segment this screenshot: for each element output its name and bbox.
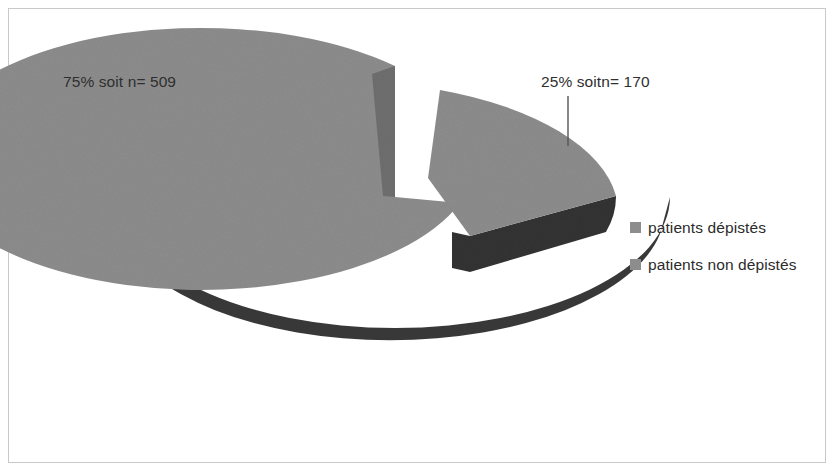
legend-swatch-icon-non-depistes — [630, 259, 641, 270]
legend-item-patients-non-depistes[interactable]: patients non dépistés — [630, 246, 830, 283]
legend-label-depistes: patients dépistés — [648, 219, 766, 237]
data-label-depistes: 25% soitn= 170 — [541, 73, 650, 91]
chart-legend: patients dépistés patients non dépistés — [630, 209, 830, 283]
legend-label-non-depistes: patients non dépistés — [648, 256, 797, 274]
pie-slice-main-notch-side — [452, 232, 470, 272]
legend-item-patients-depistes[interactable]: patients dépistés — [630, 209, 830, 246]
legend-swatch-icon-depistes — [630, 222, 641, 233]
data-label-non-depistes: 75% soit n= 509 — [63, 73, 176, 91]
pie-chart-plot-area: 75% soit n= 509 25% soitn= 170 patients … — [0, 0, 836, 473]
chart-screenshot: 75% soit n= 509 25% soitn= 170 patients … — [0, 0, 836, 473]
